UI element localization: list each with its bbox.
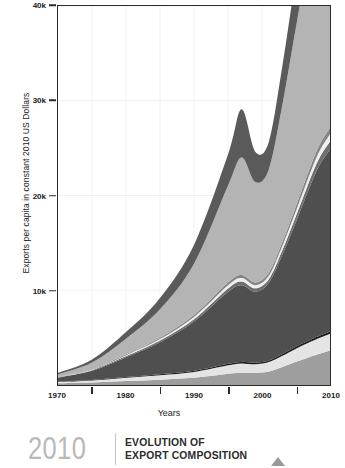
plot-area (57, 5, 331, 386)
x-tick-mark (91, 387, 93, 394)
x-tick-label: 1980 (106, 391, 146, 400)
y-tick-mark (49, 100, 56, 102)
y-tick-label: 30k (0, 96, 46, 105)
triangle-icon (271, 457, 285, 466)
x-tick-label: 2010 (311, 391, 345, 400)
caption-line-1: EVOLUTION OF (125, 436, 247, 449)
stacked-area-plot (58, 6, 330, 385)
y-tick-label: 20k (0, 191, 46, 200)
y-tick-label: 40k (0, 1, 46, 10)
y-tick-mark (49, 195, 56, 197)
x-tick-label: 2000 (243, 391, 283, 400)
y-tick-mark (49, 4, 56, 6)
y-tick-label: 10k (0, 286, 46, 295)
x-tick-label: 1970 (37, 391, 77, 400)
x-axis-label: Years (0, 408, 338, 418)
caption-text: EVOLUTION OF EXPORT COMPOSITION (125, 436, 261, 462)
x-tick-mark (297, 387, 299, 394)
y-tick-mark (49, 290, 56, 292)
caption-block: 2010 EVOLUTION OF EXPORT COMPOSITION (28, 431, 285, 467)
x-tick-mark (228, 387, 230, 394)
caption-divider (115, 433, 117, 465)
caption-line-2: EXPORT COMPOSITION (125, 449, 247, 462)
x-tick-label: 1990 (174, 391, 214, 400)
caption-year: 2010 (28, 432, 86, 466)
x-tick-mark (160, 387, 162, 394)
y-axis-label: Exports per capita in constant 2010 US D… (21, 53, 31, 313)
